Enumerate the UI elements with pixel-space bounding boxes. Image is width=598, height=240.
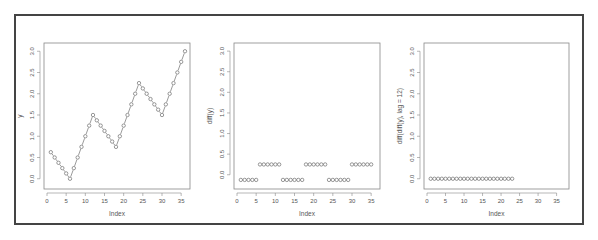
data-series [49, 50, 187, 181]
data-point [254, 178, 257, 181]
x-tick-label: 20 [310, 198, 317, 204]
y-axis-label: y [16, 114, 24, 118]
data-point [444, 177, 447, 180]
data-point [179, 60, 182, 63]
y-tick-label: 0.0 [219, 170, 225, 179]
data-point [274, 163, 277, 166]
data-point [133, 92, 136, 95]
x-tick-label: 30 [535, 198, 542, 204]
data-series [239, 163, 373, 182]
data-point [362, 163, 365, 166]
data-point [343, 178, 346, 181]
data-point [118, 135, 121, 138]
data-point [168, 92, 171, 95]
data-point [251, 178, 254, 181]
x-tick-label: 10 [82, 198, 89, 204]
y-axis: 0.00.51.01.52.02.53.0 [219, 46, 230, 179]
data-point [61, 166, 64, 169]
data-point [433, 177, 436, 180]
y-tick-label: 3.0 [29, 46, 35, 55]
data-point [53, 156, 56, 159]
data-series [429, 177, 514, 180]
data-point [470, 177, 473, 180]
data-point [99, 124, 102, 127]
x-tick-label: 15 [479, 198, 486, 204]
data-point [350, 163, 353, 166]
y-tick-label: 0.5 [29, 153, 35, 162]
data-point [339, 178, 342, 181]
y-tick-label: 2.5 [219, 67, 225, 76]
plot-box [424, 43, 569, 189]
x-axis: 05101520253035 [425, 193, 560, 204]
y-tick-label: 2.0 [29, 89, 35, 98]
data-point [247, 178, 250, 181]
x-tick-label: 25 [139, 198, 146, 204]
data-point [323, 163, 326, 166]
data-point [473, 177, 476, 180]
plot-panel-1: 05101520253035Index0.00.51.01.52.02.53.0… [16, 43, 190, 217]
x-tick-label: 5 [254, 198, 258, 204]
data-point [327, 178, 330, 181]
data-point [91, 113, 94, 116]
data-point [451, 177, 454, 180]
data-point [477, 177, 480, 180]
y-tick-label: 0.0 [29, 174, 35, 183]
data-point [346, 178, 349, 181]
x-tick-label: 25 [329, 198, 336, 204]
data-point [485, 177, 488, 180]
data-point [455, 177, 458, 180]
data-point [122, 124, 125, 127]
x-tick-label: 15 [291, 198, 298, 204]
data-point [258, 163, 261, 166]
x-tick-label: 20 [498, 198, 505, 204]
y-tick-label: 2.0 [219, 88, 225, 97]
data-point [153, 103, 156, 106]
data-point [110, 140, 113, 143]
data-point [312, 163, 315, 166]
data-point [320, 163, 323, 166]
x-axis-label: Index [109, 210, 126, 217]
data-point [183, 50, 186, 53]
x-tick-label: 15 [101, 198, 108, 204]
data-point [277, 163, 280, 166]
y-axis: 0.00.51.01.52.02.53.0 [29, 46, 40, 183]
y-tick-label: 1.0 [29, 131, 35, 140]
data-point [87, 124, 90, 127]
data-point [262, 163, 265, 166]
x-tick-label: 30 [349, 198, 356, 204]
y-tick-label: 3.0 [219, 46, 225, 55]
x-tick-label: 0 [45, 198, 49, 204]
y-tick-label: 1.0 [409, 131, 415, 140]
data-point [285, 178, 288, 181]
data-point [488, 177, 491, 180]
data-point [507, 177, 510, 180]
data-point [369, 163, 372, 166]
data-point [176, 71, 179, 74]
x-tick-label: 35 [178, 198, 185, 204]
data-point [270, 163, 273, 166]
data-point [266, 163, 269, 166]
data-point [429, 177, 432, 180]
data-point [149, 97, 152, 100]
data-point [503, 177, 506, 180]
data-point [137, 81, 140, 84]
data-point [316, 163, 319, 166]
data-point [57, 161, 60, 164]
plot-panel-2: 05101520253035Index0.00.51.01.52.02.53.0… [206, 43, 380, 217]
plot-box [44, 43, 190, 189]
data-point [297, 178, 300, 181]
x-axis-label: Index [299, 210, 316, 217]
data-point [156, 108, 159, 111]
data-point [481, 177, 484, 180]
x-tick-label: 35 [553, 198, 560, 204]
data-point [107, 135, 110, 138]
y-tick-label: 2.0 [409, 89, 415, 98]
data-point [440, 177, 443, 180]
data-point [160, 113, 163, 116]
y-axis-label: diff(diff(y), lag = 12) [396, 88, 404, 144]
data-point [510, 177, 513, 180]
y-tick-label: 1.0 [219, 129, 225, 138]
data-point [126, 113, 129, 116]
x-axis: 05101520253035 [235, 193, 375, 204]
data-point [72, 166, 75, 169]
